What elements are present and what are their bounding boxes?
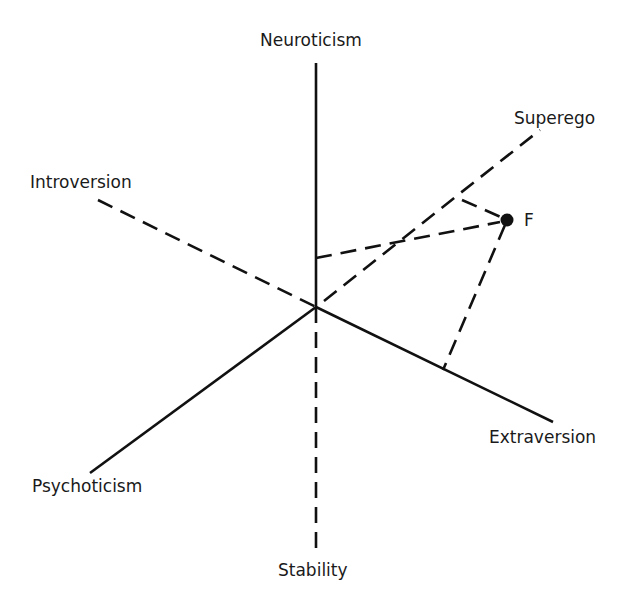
psychoticism-axis: [90, 307, 316, 473]
extraversion-label: Extraversion: [489, 427, 596, 447]
projection-to-superego: [462, 200, 503, 218]
neuroticism-label: Neuroticism: [260, 30, 362, 50]
introversion-axis: [98, 200, 316, 307]
introversion-label: Introversion: [30, 172, 132, 192]
extraversion-axis: [316, 307, 553, 422]
projection-to-extraversion: [443, 225, 505, 370]
projection-to-neuroticism: [316, 222, 500, 258]
personality-axes-diagram: Neuroticism Superego Introversion F Extr…: [0, 0, 642, 603]
stability-label: Stability: [278, 560, 348, 580]
psychoticism-label: Psychoticism: [32, 476, 142, 496]
superego-label: Superego: [514, 108, 595, 128]
point-f-marker: [501, 214, 514, 227]
point-f-label: F: [524, 210, 534, 230]
